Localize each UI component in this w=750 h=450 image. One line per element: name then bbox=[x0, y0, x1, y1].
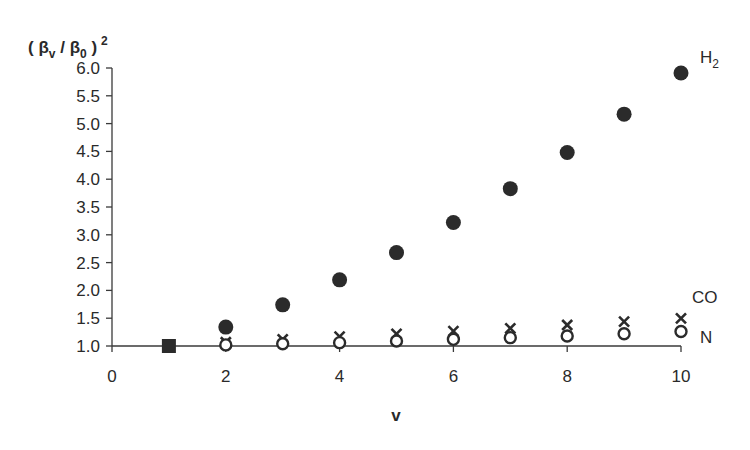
h2-point bbox=[503, 181, 518, 196]
h2-point bbox=[162, 339, 176, 353]
y-tick-label: 5.5 bbox=[76, 87, 100, 106]
n-point bbox=[277, 338, 288, 349]
x-tick-label: 0 bbox=[107, 367, 116, 386]
series-labels: H2CON bbox=[692, 48, 719, 347]
y-tick-label: 2.0 bbox=[76, 281, 100, 300]
x-axis-title: v bbox=[391, 406, 401, 425]
svg-text:( βv / β0 )2: ( βv / β0 )2 bbox=[28, 34, 108, 61]
co-point bbox=[676, 313, 686, 323]
y-tick-label: 6.0 bbox=[76, 59, 100, 78]
h2-point bbox=[218, 320, 233, 335]
co-point bbox=[562, 320, 572, 330]
y-tick-label: 3.5 bbox=[76, 198, 100, 217]
series-label-co: CO bbox=[692, 288, 718, 307]
n-point bbox=[334, 337, 345, 348]
series-label-h2: H2 bbox=[700, 48, 719, 71]
n-point bbox=[220, 339, 231, 350]
x-tick-label: 2 bbox=[221, 367, 230, 386]
x-tick-label: 6 bbox=[449, 367, 458, 386]
y-tick-label: 5.0 bbox=[76, 115, 100, 134]
n-point bbox=[619, 328, 630, 339]
y-tick-label: 1.0 bbox=[76, 337, 100, 356]
x-tick-label: 4 bbox=[335, 367, 344, 386]
x-tick-label: 10 bbox=[672, 367, 691, 386]
n-point bbox=[562, 330, 573, 341]
y-axis-title: ( βv / β0 )2 bbox=[28, 34, 108, 61]
data-points bbox=[162, 66, 689, 353]
n-point bbox=[391, 335, 402, 346]
h2-point bbox=[560, 145, 575, 160]
y-tick-label: 4.0 bbox=[76, 170, 100, 189]
h2-point bbox=[389, 245, 404, 260]
y-tick-label: 4.5 bbox=[76, 142, 100, 161]
n-point bbox=[448, 334, 459, 345]
h2-point bbox=[446, 215, 461, 230]
y-tick-label: 1.5 bbox=[76, 309, 100, 328]
n-point bbox=[676, 326, 687, 337]
co-point bbox=[619, 317, 629, 327]
h2-point bbox=[674, 66, 689, 81]
y-tick-label: 3.0 bbox=[76, 226, 100, 245]
h2-point bbox=[332, 272, 347, 287]
h2-point bbox=[617, 107, 632, 122]
axes: 1.01.52.02.53.03.54.04.55.05.56.00246810 bbox=[76, 59, 690, 386]
y-tick-label: 2.5 bbox=[76, 254, 100, 273]
series-label-n: N bbox=[700, 328, 712, 347]
x-tick-label: 8 bbox=[562, 367, 571, 386]
n-point bbox=[505, 332, 516, 343]
chart: ( βv / β0 )2 1.01.52.02.53.03.54.04.55.0… bbox=[0, 0, 750, 450]
h2-point bbox=[275, 297, 290, 312]
